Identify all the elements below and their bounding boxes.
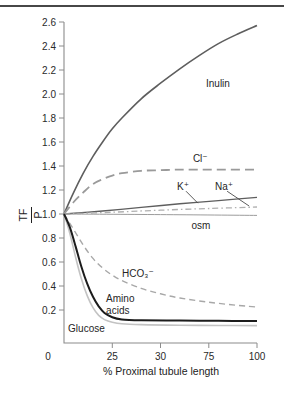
k-leader: [186, 191, 198, 203]
x-tick-label: 75: [203, 351, 215, 362]
curve-hco3: [64, 214, 257, 307]
y-axis-label: TF P: [15, 200, 47, 230]
y-tick-label: 2.4: [42, 41, 56, 52]
cl-label: Cl⁻: [193, 153, 208, 164]
glucose-label: Glucose: [68, 323, 105, 334]
y-axis-denominator: P: [33, 212, 44, 219]
y-tick-label: 0.4: [42, 281, 56, 292]
y-tick-label: 1.2: [42, 185, 56, 196]
amino-label-line1: Amino: [106, 293, 135, 304]
osm-label: osm: [192, 220, 211, 231]
y-axis-numerator: TF: [18, 209, 29, 222]
hco3-label: HCO₃⁻: [122, 268, 154, 279]
y-tick-label: 0.6: [42, 257, 56, 268]
y-tick-label: 1.8: [42, 113, 56, 124]
y-tick-label: 2.2: [42, 65, 56, 76]
inulin-label: Inulin: [206, 78, 230, 89]
curve-glucose: [64, 214, 257, 326]
k-label: K⁺: [177, 181, 189, 192]
x-tick-label: 100: [249, 351, 266, 362]
y-tick-label: 0.2: [42, 305, 56, 316]
y-tick-label: 2.6: [42, 17, 56, 28]
curve-amino-acids: [64, 214, 257, 321]
x-axis-title: % Proximal tubule length: [64, 365, 258, 377]
curve-osm: [64, 214, 257, 215]
chart-canvas: 2.62.42.22.01.81.61.41.21.00.80.60.40.20…: [0, 0, 284, 394]
x-tick-label: 0: [45, 351, 51, 362]
curve-k: [64, 197, 257, 214]
amino-label-line2: acids: [106, 305, 129, 316]
na-label: Na⁺: [215, 181, 233, 192]
figure-tfp-proximal-tubule: 2.62.42.22.01.81.61.41.21.00.80.60.40.20…: [0, 0, 284, 394]
x-tick-label: 25: [107, 351, 119, 362]
y-tick-label: 0.8: [42, 233, 56, 244]
y-tick-label: 2.0: [42, 89, 56, 100]
y-tick-label: 1.6: [42, 137, 56, 148]
x-tick-label: 30: [155, 351, 167, 362]
y-tick-label: 1.4: [42, 161, 56, 172]
curve-na: [64, 207, 257, 214]
